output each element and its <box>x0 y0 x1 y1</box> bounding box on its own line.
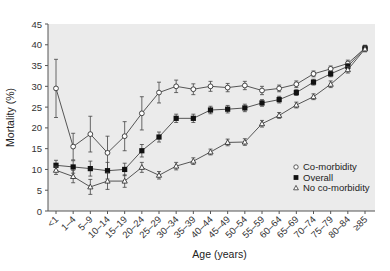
data-point <box>294 82 299 87</box>
data-point <box>174 116 179 121</box>
data-point <box>328 71 333 76</box>
data-point <box>71 164 76 169</box>
legend-label: No co-morbidity <box>303 182 370 193</box>
data-point <box>174 84 179 89</box>
data-point <box>157 90 162 95</box>
y-tick-label: 15 <box>31 143 42 154</box>
y-tick-label: 5 <box>37 185 42 196</box>
data-point <box>122 134 127 139</box>
data-point <box>260 88 265 93</box>
data-point <box>191 87 196 92</box>
data-point <box>311 80 316 85</box>
data-point <box>156 134 161 139</box>
data-point <box>88 132 93 137</box>
data-point <box>139 111 144 116</box>
y-tick-label: 35 <box>31 60 42 71</box>
data-point <box>225 85 230 90</box>
legend-item: No co-morbidity <box>294 182 370 193</box>
y-tick-label: 30 <box>31 81 42 92</box>
legend-label: Overall <box>303 172 333 183</box>
data-point <box>208 84 213 89</box>
data-point <box>311 71 316 76</box>
x-tick-label: 1–4 <box>59 214 78 233</box>
data-point <box>88 166 93 171</box>
y-axis-title: Mortality (%) <box>4 88 16 147</box>
x-axis-title: Age (years) <box>192 248 246 260</box>
data-point <box>208 107 213 112</box>
x-tick-label: ≥85 <box>350 214 369 233</box>
y-tick-label: 0 <box>37 206 42 217</box>
data-point <box>191 116 196 121</box>
x-tick-label: <1 <box>45 214 60 229</box>
legend-label: Co-morbidity <box>303 161 357 172</box>
legend-item: Co-morbidity <box>294 161 357 172</box>
data-point <box>259 100 264 105</box>
y-tick-label: 20 <box>31 122 42 133</box>
data-point <box>225 107 230 112</box>
data-point <box>242 83 247 88</box>
circle-marker-icon <box>294 165 298 169</box>
data-point <box>277 97 282 102</box>
y-tick-label: 10 <box>31 164 42 175</box>
data-point <box>122 167 127 172</box>
mortality-chart: 051015202530354045<11–45–910–1415–1920–2… <box>0 0 390 271</box>
data-point <box>71 144 76 149</box>
square-marker-icon <box>294 175 299 180</box>
y-tick-label: 45 <box>31 19 42 30</box>
y-tick-label: 40 <box>31 39 42 50</box>
data-point <box>242 105 247 110</box>
data-point <box>54 86 59 91</box>
data-point <box>105 150 110 155</box>
data-point <box>139 148 144 153</box>
data-point <box>294 90 299 95</box>
data-point <box>277 86 282 91</box>
y-tick-label: 25 <box>31 102 42 113</box>
